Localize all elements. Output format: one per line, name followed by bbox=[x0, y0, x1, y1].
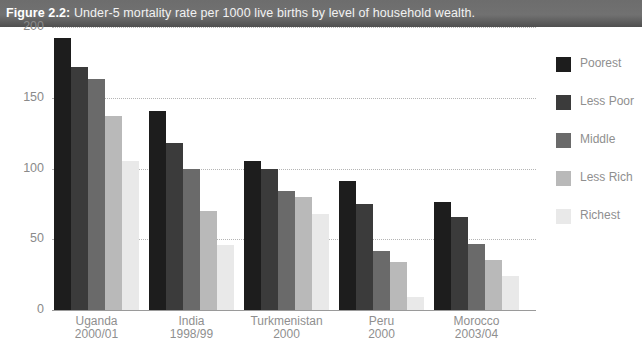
bar bbox=[339, 181, 356, 310]
bar-group bbox=[339, 27, 424, 310]
legend-item[interactable]: Richest bbox=[556, 205, 642, 243]
legend-item[interactable]: Less Poor bbox=[556, 91, 642, 129]
legend-item-label: Richest bbox=[580, 208, 620, 222]
bar bbox=[468, 244, 485, 311]
bar bbox=[244, 161, 261, 310]
y-axis-tick-label: 200 bbox=[4, 19, 44, 33]
x-axis-label: Morocco2003/04 bbox=[412, 315, 542, 341]
bar bbox=[261, 169, 278, 311]
legend-swatch-icon bbox=[556, 209, 571, 224]
bar-group bbox=[244, 27, 329, 310]
bar bbox=[166, 143, 183, 310]
bar bbox=[105, 116, 122, 310]
y-axis-tick-label: 150 bbox=[4, 90, 44, 104]
bar bbox=[183, 169, 200, 311]
y-axis-tick-label: 100 bbox=[4, 161, 44, 175]
bar bbox=[217, 245, 234, 310]
plot-area: 050100150200 bbox=[52, 27, 536, 310]
bar bbox=[122, 161, 139, 310]
bar bbox=[390, 262, 407, 310]
bar bbox=[407, 297, 424, 310]
bar bbox=[295, 197, 312, 310]
bar bbox=[54, 38, 71, 310]
chart-figure: 050100150200 Uganda2000/01India1998/99Tu… bbox=[0, 27, 642, 342]
legend-swatch-icon bbox=[556, 171, 571, 186]
legend-item-label: Middle bbox=[580, 132, 615, 146]
figure-caption-text: Under-5 mortality rate per 1000 live bir… bbox=[70, 6, 475, 20]
x-axis-label-line: 2003/04 bbox=[412, 328, 542, 341]
legend-item[interactable]: Poorest bbox=[556, 53, 642, 91]
bar bbox=[502, 276, 519, 310]
bar bbox=[312, 214, 329, 310]
legend-swatch-icon bbox=[556, 133, 571, 148]
bar bbox=[200, 211, 217, 310]
bar-group bbox=[149, 27, 234, 310]
x-axis-line bbox=[52, 310, 536, 311]
legend-item-label: Less Poor bbox=[580, 94, 634, 108]
bar bbox=[71, 67, 88, 310]
y-axis-tick-label: 0 bbox=[4, 302, 44, 316]
y-axis-tick-label: 50 bbox=[4, 231, 44, 245]
bar bbox=[451, 217, 468, 310]
bar-group bbox=[434, 27, 519, 310]
bar bbox=[88, 79, 105, 310]
legend-item[interactable]: Less Rich bbox=[556, 167, 642, 205]
figure-caption-label: Figure 2.2: bbox=[6, 6, 70, 20]
bar bbox=[149, 111, 166, 311]
bar bbox=[356, 204, 373, 310]
legend-item-label: Less Rich bbox=[580, 170, 633, 184]
legend-item-label: Poorest bbox=[580, 56, 621, 70]
bar bbox=[485, 260, 502, 310]
legend-swatch-icon bbox=[556, 95, 571, 110]
bar bbox=[278, 191, 295, 310]
bar-group bbox=[54, 27, 139, 310]
legend-swatch-icon bbox=[556, 57, 571, 72]
bar bbox=[373, 251, 390, 310]
bar bbox=[434, 202, 451, 310]
legend-item[interactable]: Middle bbox=[556, 129, 642, 167]
figure-caption-band: Figure 2.2: Under-5 mortality rate per 1… bbox=[0, 0, 642, 27]
chart-legend: PoorestLess PoorMiddleLess RichRichest bbox=[556, 53, 642, 243]
